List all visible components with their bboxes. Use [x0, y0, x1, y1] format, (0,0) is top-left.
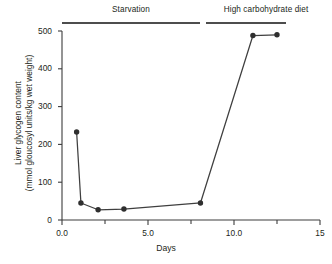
x-tick-label: 15 [305, 228, 332, 238]
y-axis-title: Liver glycogen content (mmol gloucosyl u… [13, 23, 35, 223]
data-point-marker [78, 200, 83, 205]
data-series [74, 32, 280, 212]
data-point-marker [250, 33, 255, 38]
y-axis-ticks [58, 31, 62, 220]
y-axis-title-line1: Liver glycogen content [13, 23, 24, 223]
x-tick-label: 10.0 [219, 228, 249, 238]
series-markers [74, 32, 280, 212]
axes [62, 31, 320, 220]
y-axis-title-line2: (mmol gloucosyl units/kg wet weight) [24, 23, 35, 223]
data-point-marker [198, 200, 203, 205]
data-point-marker [74, 129, 79, 134]
x-tick-label: 0.0 [47, 228, 77, 238]
data-point-marker [95, 207, 100, 212]
series-line-liver-glycogen [77, 35, 277, 210]
x-axis-ticks [62, 220, 320, 225]
data-point-marker [274, 32, 279, 37]
chart-figure: Starvation High carbohydrate diet 010020… [0, 0, 332, 264]
data-point-marker [121, 206, 126, 211]
x-axis-title: Days [0, 243, 332, 253]
x-tick-label: 5.0 [133, 228, 163, 238]
